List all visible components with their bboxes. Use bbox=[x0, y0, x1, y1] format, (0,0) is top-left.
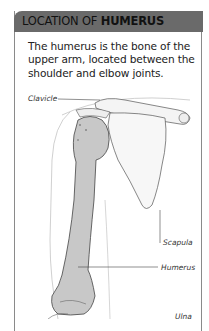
humerus-anatomy-illustration bbox=[0, 85, 209, 319]
clavicle-leader bbox=[58, 99, 100, 100]
header-title-emphasis: HUMERUS bbox=[101, 14, 164, 28]
card-header: LOCATION OF HUMERUS bbox=[14, 11, 203, 32]
label-humerus: Humerus bbox=[161, 263, 195, 272]
label-ulna: Ulna bbox=[175, 312, 192, 321]
label-clavicle: Clavicle bbox=[28, 94, 57, 103]
intro-text: The humerus is the bone of the upper arm… bbox=[28, 40, 198, 80]
humerus-bone bbox=[52, 117, 110, 316]
label-scapula: Scapula bbox=[163, 238, 193, 247]
header-title-prefix: LOCATION OF bbox=[22, 14, 101, 28]
